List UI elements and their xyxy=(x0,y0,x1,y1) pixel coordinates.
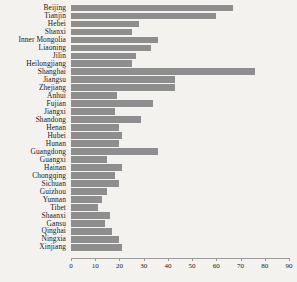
bar-track xyxy=(71,220,289,228)
bar-chart: BeijingTianjinHebeiShanxiInner MongoliaL… xyxy=(0,0,297,282)
bar xyxy=(71,84,175,90)
bar xyxy=(71,76,175,82)
bar xyxy=(71,13,216,19)
bar-track xyxy=(71,236,289,244)
bar-track xyxy=(71,156,289,164)
bar xyxy=(71,212,110,218)
bar-track xyxy=(71,132,289,140)
x-tick xyxy=(119,258,120,261)
x-tick-label: 0 xyxy=(69,262,73,270)
x-tick xyxy=(144,258,145,261)
x-tick-label: 50 xyxy=(189,262,196,270)
bar-row: Tianjin xyxy=(0,12,297,20)
bar-track xyxy=(71,108,289,116)
bar-track xyxy=(71,36,289,44)
bar xyxy=(71,60,132,66)
bar-track xyxy=(71,228,289,236)
bar-track xyxy=(71,28,289,36)
bar xyxy=(71,148,158,154)
bar-row: Hubei xyxy=(0,132,297,140)
x-tick xyxy=(216,258,217,261)
bar-track xyxy=(71,244,289,252)
bar xyxy=(71,45,151,51)
x-tick xyxy=(192,258,193,261)
bar-track xyxy=(71,44,289,52)
bar-track xyxy=(71,164,289,172)
x-tick-label: 70 xyxy=(237,262,244,270)
bar xyxy=(71,180,119,186)
bar xyxy=(71,228,112,234)
x-tick-label: 90 xyxy=(286,262,293,270)
bar-track xyxy=(71,124,289,132)
bar xyxy=(71,124,119,130)
bar xyxy=(71,5,233,11)
bar-track xyxy=(71,196,289,204)
bar-track xyxy=(71,204,289,212)
bar-track xyxy=(71,92,289,100)
bar-track xyxy=(71,116,289,124)
bar-row: Yunnan xyxy=(0,196,297,204)
bar-row: Anhui xyxy=(0,92,297,100)
bar-track xyxy=(71,68,289,76)
bar xyxy=(71,92,117,98)
bar-row: Shaanxi xyxy=(0,212,297,220)
bar xyxy=(71,172,115,178)
bar xyxy=(71,116,141,122)
bar xyxy=(71,236,119,242)
bar-track xyxy=(71,20,289,28)
x-tick-label: 80 xyxy=(261,262,268,270)
x-tick xyxy=(241,258,242,261)
bar-track xyxy=(71,60,289,68)
x-tick xyxy=(289,258,290,261)
bar-track xyxy=(71,188,289,196)
bar-track xyxy=(71,52,289,60)
bar xyxy=(71,68,255,74)
bar-track xyxy=(71,212,289,220)
bar xyxy=(71,156,107,162)
bar xyxy=(71,37,158,43)
bar-row: Liaoning xyxy=(0,44,297,52)
bar-track xyxy=(71,140,289,148)
bar-row: Shandong xyxy=(0,116,297,124)
category-label: Xinjiang xyxy=(0,243,66,251)
x-tick xyxy=(168,258,169,261)
x-tick-label: 10 xyxy=(92,262,99,270)
bar xyxy=(71,196,102,202)
bar-track xyxy=(71,76,289,84)
bar-rows: BeijingTianjinHebeiShanxiInner MongoliaL… xyxy=(0,4,297,252)
bar-row: Xinjiang xyxy=(0,244,297,252)
x-tick-label: 20 xyxy=(116,262,123,270)
bar-track xyxy=(71,12,289,20)
bar xyxy=(71,132,122,138)
x-tick-label: 30 xyxy=(140,262,147,270)
x-tick xyxy=(71,258,72,261)
bar xyxy=(71,29,132,35)
bar xyxy=(71,108,115,114)
bar xyxy=(71,204,98,210)
bar xyxy=(71,188,107,194)
bar xyxy=(71,164,122,170)
plot-area: BeijingTianjinHebeiShanxiInner MongoliaL… xyxy=(0,0,297,282)
x-tick xyxy=(265,258,266,261)
bar xyxy=(71,220,105,226)
bar xyxy=(71,244,122,250)
bar xyxy=(71,21,139,27)
bar-row: Henan xyxy=(0,124,297,132)
bar-track xyxy=(71,100,289,108)
bar xyxy=(71,100,153,106)
bar-track xyxy=(71,84,289,92)
x-axis-line xyxy=(71,258,289,259)
bar xyxy=(71,53,136,59)
x-tick xyxy=(95,258,96,261)
bar-row: Zhejiang xyxy=(0,84,297,92)
bar-track xyxy=(71,180,289,188)
bar-track xyxy=(71,148,289,156)
x-tick-label: 60 xyxy=(213,262,220,270)
x-tick-label: 40 xyxy=(164,262,171,270)
bar-track xyxy=(71,4,289,12)
bar-track xyxy=(71,172,289,180)
bar xyxy=(71,140,119,146)
